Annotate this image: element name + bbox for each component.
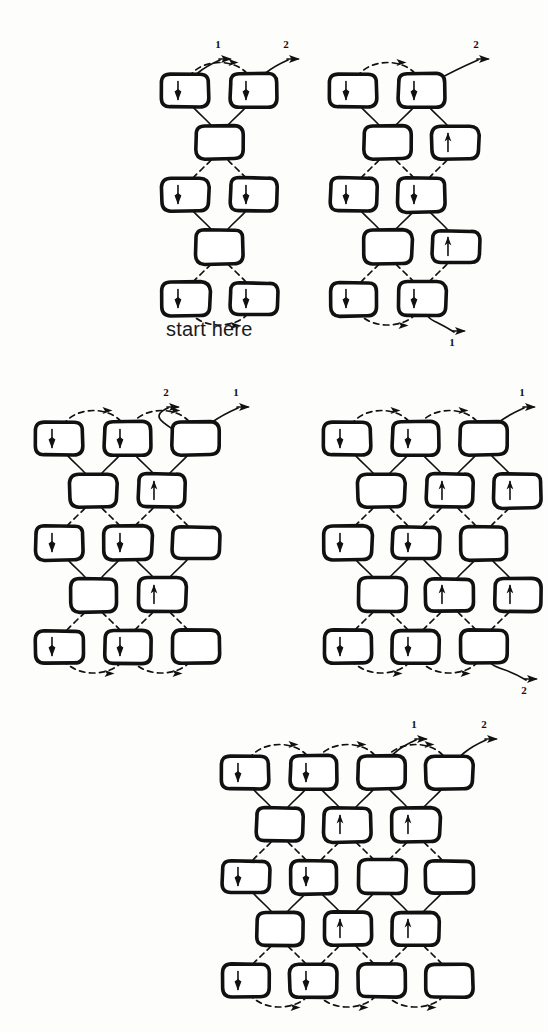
- grid-box: [431, 126, 479, 159]
- grid-box: [398, 73, 445, 107]
- grid-box: [138, 577, 186, 611]
- grid-box: [493, 474, 541, 509]
- strand-number-label: 2: [481, 718, 487, 730]
- grid-box: [358, 964, 405, 997]
- grid-box: [358, 756, 405, 790]
- grid-box: [398, 281, 446, 315]
- grid-box: [364, 126, 411, 160]
- grid-box: [392, 421, 439, 455]
- grid-box: [290, 755, 337, 789]
- diagram-5-box-layer: [221, 755, 473, 997]
- grid-box: [230, 177, 277, 211]
- diagram-2: 21: [316, 60, 546, 360]
- figure-root: 12 21 21 12 12 start here: [0, 0, 548, 1032]
- grid-box: [426, 473, 473, 507]
- grid-box: [257, 912, 303, 945]
- grid-box: [195, 230, 243, 265]
- strand-number-label: 2: [473, 38, 479, 50]
- grid-box: [291, 860, 337, 894]
- strand-number-label: 1: [411, 718, 417, 730]
- grid-box: [161, 178, 209, 211]
- diagram-2-box-layer: [329, 73, 480, 316]
- grid-box: [71, 578, 117, 612]
- grid-box: [425, 579, 473, 611]
- grid-box: [364, 230, 413, 264]
- strand-number-label: 1: [449, 336, 455, 348]
- grid-box: [35, 422, 82, 455]
- diagram-3-box-layer: [35, 421, 220, 663]
- grid-box: [223, 964, 270, 997]
- strand-number-label: 1: [233, 386, 239, 398]
- diagram-3: 21: [22, 408, 272, 698]
- grid-box: [222, 861, 270, 893]
- strand-number-label: 2: [163, 386, 169, 398]
- grid-box: [35, 526, 83, 561]
- strand-number-label: 1: [215, 38, 221, 50]
- diagram-5: 12: [208, 742, 508, 1032]
- grid-box: [460, 422, 507, 456]
- grid-box: [172, 630, 219, 663]
- grid-box: [289, 964, 337, 997]
- grid-box: [425, 861, 473, 893]
- grid-box: [331, 282, 377, 316]
- grid-box: [196, 126, 243, 160]
- grid-box: [358, 859, 406, 893]
- grid-box: [105, 630, 151, 663]
- grid-box: [324, 630, 371, 663]
- grid-box: [138, 473, 185, 507]
- diagram-2-label-layer: 21: [449, 38, 479, 348]
- grid-box: [172, 422, 219, 456]
- grid-box: [104, 526, 153, 560]
- diagram-4-box-layer: [323, 421, 541, 663]
- grid-box: [392, 912, 439, 945]
- grid-box: [495, 578, 541, 611]
- diagram-4: 12: [310, 408, 548, 708]
- grid-box: [397, 178, 445, 213]
- start-here-label: start here: [166, 318, 252, 341]
- grid-box: [162, 282, 211, 316]
- strand-number-label: 2: [521, 684, 527, 696]
- diagram-3-label-layer: 21: [163, 386, 239, 398]
- grid-box: [172, 527, 220, 559]
- diagram-4-label-layer: 12: [519, 386, 527, 696]
- grid-box: [392, 808, 441, 842]
- grid-box: [392, 527, 440, 559]
- grid-box: [461, 526, 507, 560]
- grid-box: [323, 422, 370, 455]
- grid-box: [330, 177, 377, 211]
- grid-box: [324, 912, 371, 945]
- grid-box: [230, 73, 277, 107]
- strand-number-label: 2: [283, 38, 289, 50]
- grid-box: [104, 421, 151, 455]
- grid-box: [69, 474, 117, 507]
- grid-box: [392, 630, 439, 663]
- grid-box: [230, 283, 278, 315]
- grid-box: [358, 577, 406, 611]
- diagram-1-label-layer: 12: [215, 38, 289, 50]
- grid-box: [461, 630, 508, 663]
- grid-box: [432, 231, 480, 263]
- diagram-5-label-layer: 12: [411, 718, 487, 730]
- grid-box: [256, 807, 303, 841]
- grid-box: [329, 74, 376, 107]
- grid-box: [161, 74, 208, 107]
- grid-box: [323, 808, 371, 843]
- grid-box: [357, 474, 405, 507]
- strand-number-label: 1: [519, 386, 525, 398]
- grid-box: [221, 756, 268, 789]
- grid-box: [324, 526, 373, 560]
- grid-box: [425, 756, 473, 789]
- grid-box: [35, 631, 83, 663]
- grid-box: [426, 964, 473, 997]
